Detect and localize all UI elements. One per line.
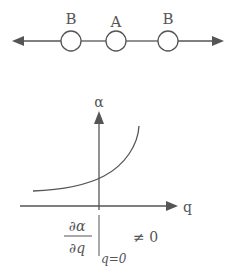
label-b-left: B (65, 10, 76, 28)
alpha-curve (33, 126, 139, 191)
diagram-canvas: B A B α q ∂α ∂q q=0 ≠ 0 (0, 0, 233, 267)
evaluated-at: q=0 (101, 252, 127, 266)
molecule-chain: B A B (12, 10, 224, 51)
y-axis-arrow-icon (94, 111, 104, 124)
not-equal-zero: ≠ 0 (133, 229, 158, 245)
numerator: ∂α (69, 218, 86, 234)
atom-a (106, 31, 126, 51)
x-axis-arrow-icon (166, 201, 178, 211)
x-axis-label: q (183, 199, 192, 215)
denominator: ∂q (69, 240, 85, 256)
atom-b-right (158, 31, 178, 51)
label-b-right: B (162, 10, 173, 28)
y-axis-label: α (94, 94, 104, 110)
label-a: A (110, 13, 122, 31)
alpha-vs-q-graph: α q (20, 94, 192, 215)
derivative-equation: ∂α ∂q q=0 ≠ 0 (64, 215, 158, 266)
atom-b-left (61, 31, 81, 51)
right-arrow-icon (212, 36, 224, 46)
left-arrow-icon (12, 36, 24, 46)
